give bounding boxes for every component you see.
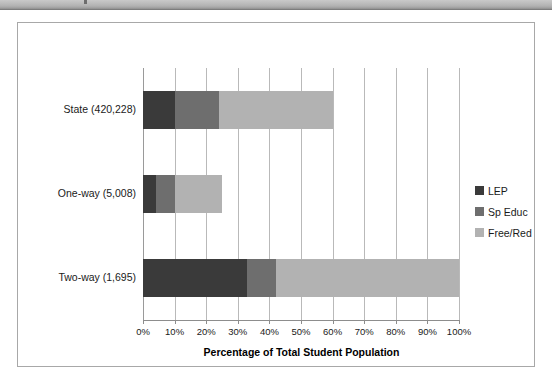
x-tick-label: 70% <box>355 326 374 337</box>
bar-segment-free-red <box>276 259 459 297</box>
x-tick-label: 90% <box>418 326 437 337</box>
x-tick-mark <box>206 320 207 324</box>
x-tick-label: 20% <box>197 326 216 337</box>
x-tick-label: 60% <box>323 326 342 337</box>
x-tick-label: 10% <box>165 326 184 337</box>
x-tick-mark <box>459 320 460 324</box>
legend-swatch-icon <box>475 186 484 195</box>
bar-row <box>143 91 333 129</box>
legend-label: Free/Red <box>488 227 532 239</box>
scan-artifact-edge <box>0 9 552 10</box>
x-tick-mark <box>396 320 397 324</box>
x-tick-mark <box>238 320 239 324</box>
x-tick-label: 50% <box>291 326 310 337</box>
gridline-100 <box>459 68 460 320</box>
y-axis-category-label: One-way (5,008) <box>26 187 136 199</box>
x-tick-mark <box>143 320 144 324</box>
plot-area <box>143 68 459 320</box>
y-axis-category-label: Two-way (1,695) <box>26 271 136 283</box>
bar-row <box>143 259 459 297</box>
x-tick-label: 40% <box>260 326 279 337</box>
bar-segment-sp-educ <box>156 175 175 213</box>
bar-segment-free-red <box>175 175 222 213</box>
legend-swatch-icon <box>475 207 484 216</box>
x-tick-mark <box>301 320 302 324</box>
scan-artifact-band <box>0 0 552 9</box>
bar-row <box>143 175 222 213</box>
x-axis-title: Percentage of Total Student Population <box>143 346 460 358</box>
x-tick-mark <box>333 320 334 324</box>
chart-legend: LEPSp EducFree/Red <box>475 182 550 245</box>
bar-segment-lep <box>143 175 156 213</box>
y-axis-category-label: State (420,228) <box>26 103 136 115</box>
bar-segment-lep <box>143 259 247 297</box>
legend-item-free-red: Free/Red <box>475 224 550 241</box>
chart-figure-frame: State (420,228)One-way (5,008)Two-way (1… <box>17 22 535 367</box>
x-tick-mark <box>269 320 270 324</box>
x-tick-mark <box>364 320 365 324</box>
x-tick-mark <box>175 320 176 324</box>
bar-segment-sp-educ <box>175 91 219 129</box>
y-axis-category-labels: State (420,228)One-way (5,008)Two-way (1… <box>26 68 136 320</box>
x-tick-label: 0% <box>136 326 150 337</box>
legend-label: Sp Educ <box>488 206 528 218</box>
x-tick-label: 100% <box>447 326 471 337</box>
bar-segment-free-red <box>219 91 333 129</box>
legend-label: LEP <box>488 185 508 197</box>
bar-segment-sp-educ <box>247 259 275 297</box>
x-tick-label: 30% <box>228 326 247 337</box>
x-tick-mark <box>427 320 428 324</box>
legend-item-lep: LEP <box>475 182 550 199</box>
scan-artifact-speck <box>84 0 87 4</box>
bar-segment-lep <box>143 91 175 129</box>
x-tick-label: 80% <box>386 326 405 337</box>
legend-swatch-icon <box>475 228 484 237</box>
legend-item-sp-educ: Sp Educ <box>475 203 550 220</box>
